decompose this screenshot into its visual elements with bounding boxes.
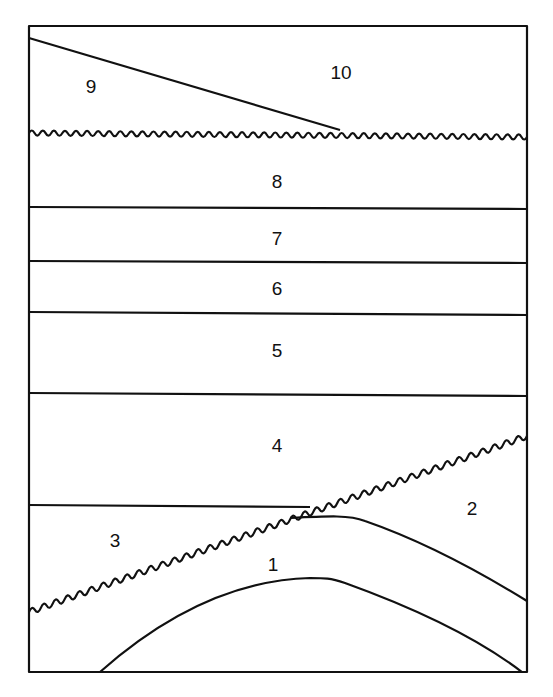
label-1: 1 xyxy=(268,554,279,576)
fold-lower-curve xyxy=(100,578,522,672)
label-7: 7 xyxy=(272,228,283,250)
label-5: 5 xyxy=(272,340,283,362)
boundary-5-4 xyxy=(29,393,527,396)
label-10: 10 xyxy=(330,62,351,84)
unconformity-upper xyxy=(29,131,527,140)
label-2: 2 xyxy=(467,498,478,520)
boundary-8-7 xyxy=(29,207,527,209)
label-8: 8 xyxy=(272,171,283,193)
boundary-7-6 xyxy=(29,261,527,263)
contact-9-10 xyxy=(29,38,340,130)
unconformity-lower xyxy=(29,436,527,612)
fold-upper-curve xyxy=(290,516,527,601)
label-4: 4 xyxy=(272,435,283,457)
label-3: 3 xyxy=(110,530,121,552)
boundary-6-5 xyxy=(29,312,527,315)
label-9: 9 xyxy=(86,76,97,98)
boundary-4-3 xyxy=(29,505,310,507)
label-6: 6 xyxy=(272,278,283,300)
